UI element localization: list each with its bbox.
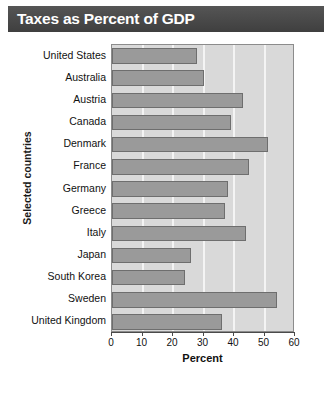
x-tick-mark xyxy=(111,332,112,336)
bar xyxy=(112,115,231,131)
bar xyxy=(112,137,268,153)
bar xyxy=(112,270,185,286)
bar xyxy=(112,181,228,197)
x-tick-label: 30 xyxy=(191,337,215,348)
category-label: Denmark xyxy=(63,138,106,149)
category-label: Sweden xyxy=(68,293,106,304)
category-label: Greece xyxy=(72,205,106,216)
bar xyxy=(112,70,204,86)
bar xyxy=(112,226,246,242)
x-tick-label: 10 xyxy=(130,337,154,348)
category-label: Australia xyxy=(65,72,106,83)
gridline xyxy=(233,45,235,331)
x-tick-mark xyxy=(172,332,173,336)
category-label: South Korea xyxy=(48,271,106,282)
plot-area xyxy=(111,44,294,332)
page-title: Taxes as Percent of GDP xyxy=(8,10,195,28)
category-label: United Kingdom xyxy=(31,315,106,326)
category-axis-labels: United StatesAustraliaAustriaCanadaDenma… xyxy=(11,44,106,332)
bar xyxy=(112,93,243,109)
category-label: France xyxy=(73,160,106,171)
x-tick-label: 50 xyxy=(252,337,276,348)
x-tick-label: 40 xyxy=(221,337,245,348)
x-tick-mark xyxy=(142,332,143,336)
gridline xyxy=(264,45,266,331)
category-label: Canada xyxy=(69,116,106,127)
plot-wrapper: United StatesAustraliaAustriaCanadaDenma… xyxy=(111,44,294,332)
x-tick-mark xyxy=(264,332,265,336)
x-tick-mark xyxy=(233,332,234,336)
x-tick-label: 60 xyxy=(282,337,306,348)
x-tick-label: 0 xyxy=(99,337,123,348)
category-label: Austria xyxy=(73,94,106,105)
bar xyxy=(112,159,249,175)
bar xyxy=(112,292,277,308)
title-banner: Taxes as Percent of GDP xyxy=(8,6,324,32)
category-label: Japan xyxy=(77,249,106,260)
bar xyxy=(112,314,222,330)
bar xyxy=(112,48,197,64)
x-axis-title: Percent xyxy=(111,352,294,364)
chart-figure: Taxes as Percent of GDP Selected countri… xyxy=(0,0,332,395)
x-tick-label: 20 xyxy=(160,337,184,348)
category-label: Germany xyxy=(63,183,106,194)
x-tick-mark xyxy=(294,332,295,336)
category-label: Italy xyxy=(87,227,106,238)
category-label: United States xyxy=(43,50,106,61)
bar xyxy=(112,203,225,219)
bar xyxy=(112,248,191,264)
chart-card: Selected countries United StatesAustrali… xyxy=(8,32,324,384)
x-tick-mark xyxy=(203,332,204,336)
